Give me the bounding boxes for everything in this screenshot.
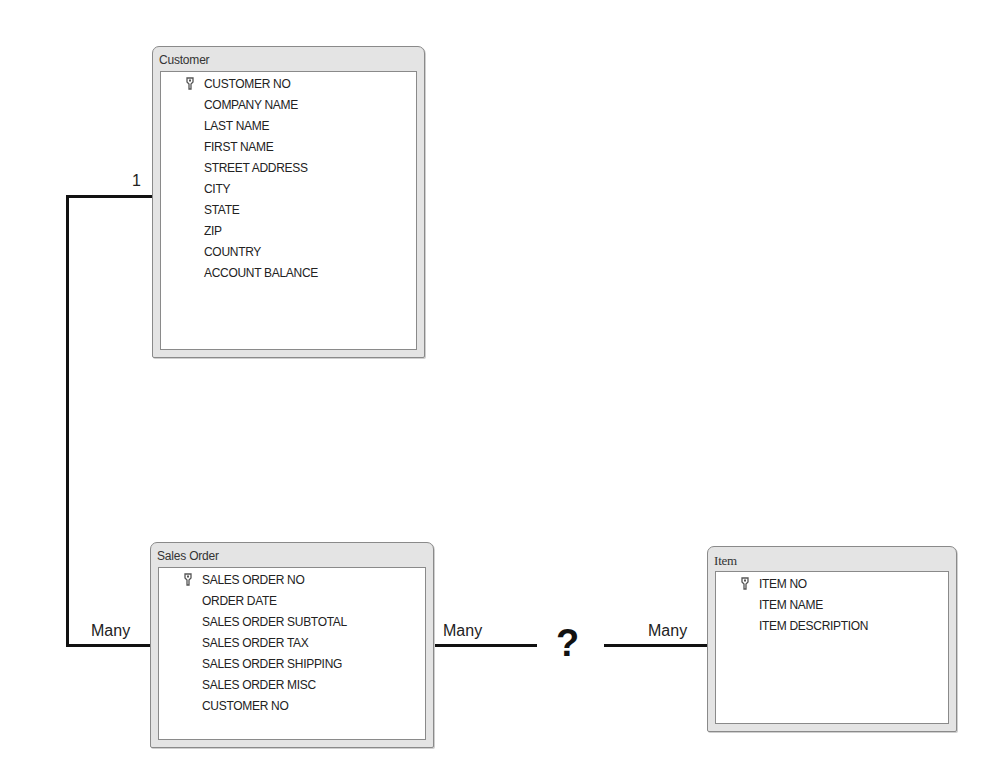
field-list: SALES ORDER NO ORDER DATE SALES ORDER SU…: [158, 567, 426, 740]
field-country[interactable]: COUNTRY: [204, 245, 261, 259]
field-company-name[interactable]: COMPANY NAME: [204, 98, 298, 112]
field-account-balance[interactable]: ACCOUNT BALANCE: [204, 266, 318, 280]
field-list: CUSTOMER NO COMPANY NAME LAST NAME FIRST…: [160, 71, 417, 350]
field-list: ITEM NO ITEM NAME ITEM DESCRIPTION: [715, 571, 949, 724]
key-icon: [740, 577, 750, 590]
field-sales-order-tax[interactable]: SALES ORDER TAX: [202, 636, 308, 650]
field-zip[interactable]: ZIP: [204, 224, 222, 238]
field-item-description[interactable]: ITEM DESCRIPTION: [759, 619, 868, 633]
field-customer-no[interactable]: CUSTOMER NO: [202, 699, 288, 713]
field-sales-order-misc[interactable]: SALES ORDER MISC: [202, 678, 316, 692]
table-sales-order[interactable]: Sales Order SALES ORDER NO ORDER DATE SA…: [150, 542, 434, 748]
field-state[interactable]: STATE: [204, 203, 239, 217]
cardinality-salesorder-many-right: Many: [443, 622, 482, 640]
field-item-no[interactable]: ITEM NO: [759, 577, 807, 591]
rel-line-item-left: [604, 644, 708, 647]
key-icon: [183, 573, 193, 586]
cardinality-item-many: Many: [648, 622, 687, 640]
field-first-name[interactable]: FIRST NAME: [204, 140, 273, 154]
field-last-name[interactable]: LAST NAME: [204, 119, 269, 133]
field-sales-order-subtotal[interactable]: SALES ORDER SUBTOTAL: [202, 615, 347, 629]
field-customer-no[interactable]: CUSTOMER NO: [204, 77, 290, 91]
table-customer[interactable]: Customer CUSTOMER NO COMPANY NAME LAST N…: [152, 46, 425, 358]
rel-line-salesorder-right: [433, 644, 537, 647]
table-item[interactable]: Item ITEM NO ITEM NAME ITEM DESCRIPTION: [707, 546, 957, 732]
rel-line-vertical: [66, 195, 69, 647]
cardinality-salesorder-many-left: Many: [91, 622, 130, 640]
field-item-name[interactable]: ITEM NAME: [759, 598, 823, 612]
field-street-address[interactable]: STREET ADDRESS: [204, 161, 308, 175]
field-sales-order-no[interactable]: SALES ORDER NO: [202, 573, 305, 587]
table-title: Sales Order: [157, 549, 219, 563]
rel-line-salesorder-left: [66, 644, 151, 647]
rel-line-customer-top: [66, 195, 153, 198]
table-title: Item: [714, 553, 737, 569]
field-sales-order-shipping[interactable]: SALES ORDER SHIPPING: [202, 657, 342, 671]
key-icon: [185, 77, 195, 90]
cardinality-customer-one: 1: [132, 172, 141, 190]
table-title: Customer: [159, 53, 209, 67]
unknown-relationship-marker: ?: [556, 622, 579, 665]
field-order-date[interactable]: ORDER DATE: [202, 594, 277, 608]
field-city[interactable]: CITY: [204, 182, 230, 196]
